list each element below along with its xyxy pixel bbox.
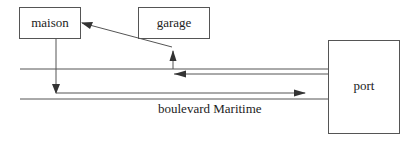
maison-label: maison — [31, 15, 69, 30]
arrow-to-maison-icon — [81, 22, 93, 29]
arrow-right-icon — [294, 90, 306, 97]
node-maison: maison — [20, 8, 81, 39]
road-label: boulevard Maritime — [158, 101, 262, 116]
arrow-left-icon — [174, 71, 186, 78]
node-garage: garage — [139, 8, 210, 39]
port-label: port — [354, 78, 375, 93]
arrow-up-icon — [170, 50, 177, 61]
node-port: port — [329, 41, 400, 134]
route-maison-to-port — [52, 38, 306, 97]
route-diagram: maison garage port boulevard Maritime — [0, 0, 420, 142]
garage-label: garage — [157, 15, 192, 30]
